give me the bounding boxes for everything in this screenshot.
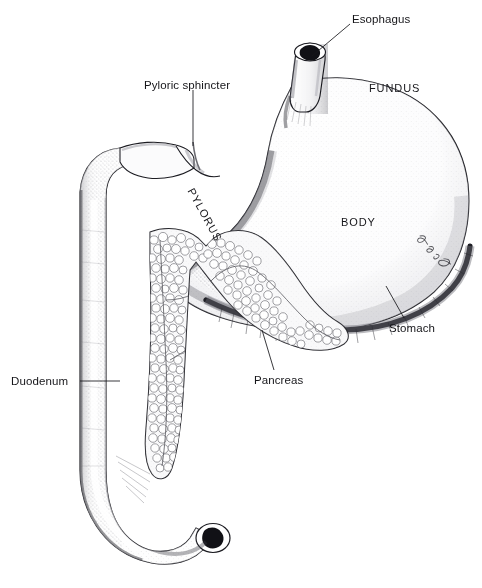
illustration-page: Esophagus Pyloric sphincter FUNDUS BODY …: [0, 0, 482, 588]
label-body: BODY: [341, 216, 376, 228]
label-pyloric-sphincter: Pyloric sphincter: [144, 79, 230, 91]
duodenal-serosa-lines: [116, 456, 150, 503]
label-pancreas: Pancreas: [254, 374, 303, 386]
label-fundus: FUNDUS: [369, 82, 420, 94]
label-esophagus: Esophagus: [352, 13, 410, 25]
label-stomach: Stomach: [389, 322, 435, 334]
label-duodenum: Duodenum: [11, 375, 68, 387]
leader-esophagus: [312, 24, 350, 56]
